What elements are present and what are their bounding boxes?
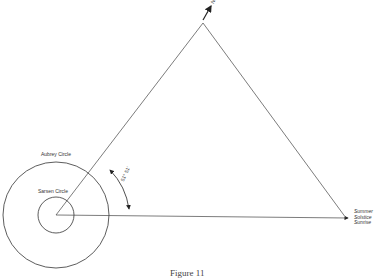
north-arrow [203,6,211,20]
sunrise-line [56,215,348,218]
triangle-right-side [203,23,346,218]
sunrise-label-line3: Sunrise [354,220,373,226]
aubrey-circle-label: Aubrey Circle [41,152,71,158]
figure-caption: Figure 11 [170,268,204,278]
north-line [56,23,203,215]
sarsen-circle-label: Sarsen Circle [38,189,68,195]
sunrise-label: Summer Solstice Sunrise [354,209,373,226]
